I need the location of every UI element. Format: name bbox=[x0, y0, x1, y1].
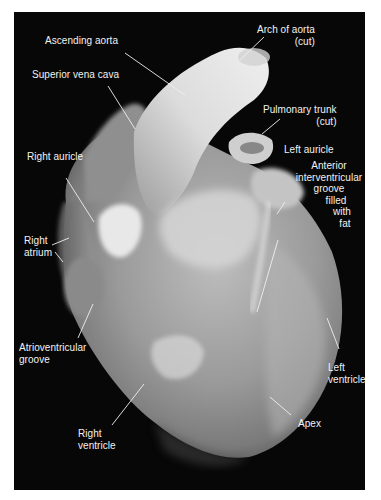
label-ascending-aorta: Ascending aorta bbox=[45, 35, 118, 47]
label-arch-of-aorta: Arch of aorta (cut) bbox=[257, 24, 315, 47]
label-apex: Apex bbox=[298, 418, 321, 430]
label-superior-vena-cava: Superior vena cava bbox=[32, 69, 119, 81]
label-left-ventricle: Left ventricle bbox=[328, 362, 365, 385]
label-right-auricle: Right auricle bbox=[27, 151, 83, 163]
label-right-atrium: Right atrium bbox=[24, 235, 52, 258]
label-left-auricle: Left auricle bbox=[284, 144, 334, 156]
heart-photograph: Arch of aorta (cut) Ascending aorta Supe… bbox=[14, 12, 365, 490]
label-anterior-interventricular-groove: Anterior interventricular groove filled … bbox=[286, 160, 365, 229]
label-right-ventricle: Right ventricle bbox=[78, 428, 116, 451]
label-pulmonary-trunk: Pulmonary trunk (cut) bbox=[263, 104, 337, 127]
label-atrioventricular-groove: Atrioventricular groove bbox=[19, 342, 87, 365]
